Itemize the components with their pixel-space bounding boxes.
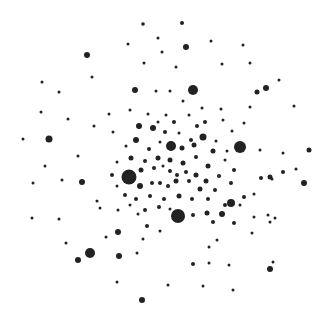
dot [132, 87, 138, 93]
dot [116, 253, 122, 259]
dot [232, 289, 235, 292]
dot [105, 236, 108, 239]
dot [143, 62, 146, 65]
dot [178, 132, 181, 135]
dot [166, 184, 170, 188]
dot [129, 109, 132, 112]
dot [162, 165, 165, 168]
dot [201, 107, 204, 110]
dot [211, 149, 216, 154]
dot [263, 85, 269, 91]
dot [136, 252, 139, 255]
dot [189, 138, 193, 142]
dot [232, 221, 236, 225]
dot [145, 224, 149, 228]
dot [136, 123, 142, 129]
dot [162, 197, 166, 201]
dot [116, 185, 119, 188]
dot [242, 44, 245, 47]
dot [116, 281, 119, 284]
dot [148, 194, 152, 198]
dot [188, 114, 191, 117]
dot [228, 264, 231, 267]
dot [157, 205, 161, 209]
dot [229, 181, 233, 185]
dot [99, 207, 102, 210]
dot [122, 170, 137, 185]
dot [58, 91, 61, 94]
dot [206, 197, 210, 201]
dot [175, 66, 178, 69]
dot [274, 217, 277, 220]
dot [172, 120, 176, 124]
dot [129, 156, 134, 161]
dot [167, 284, 170, 287]
dot [181, 161, 186, 166]
dot [251, 232, 254, 235]
dot [67, 118, 70, 121]
dot [177, 194, 182, 199]
dot [182, 100, 185, 103]
dot [243, 122, 246, 125]
dot [267, 266, 273, 272]
dot [242, 195, 246, 199]
dot [224, 159, 227, 162]
dot [159, 141, 162, 144]
dot [143, 159, 147, 163]
dot [171, 209, 185, 223]
dot [75, 257, 81, 263]
dot [41, 81, 44, 84]
dot [65, 242, 68, 245]
dot [222, 119, 225, 122]
dot [215, 140, 218, 143]
dot [307, 148, 312, 153]
dot [255, 90, 260, 95]
dot [142, 238, 145, 241]
dot [155, 90, 158, 93]
dot [200, 134, 207, 141]
dot [194, 173, 199, 178]
dot [205, 211, 210, 216]
dot [253, 193, 256, 196]
dot [169, 208, 172, 211]
dot [282, 152, 285, 155]
dot [195, 124, 199, 128]
dot [281, 170, 285, 174]
dot [31, 217, 34, 220]
dot [217, 174, 221, 178]
dot [150, 181, 154, 185]
dot [227, 199, 235, 207]
dot [293, 105, 296, 108]
dot [123, 193, 127, 197]
dot [210, 40, 213, 43]
dot [168, 169, 172, 173]
dot [232, 168, 236, 172]
dot [133, 137, 139, 143]
dot [301, 180, 307, 186]
dot [206, 164, 211, 169]
dot [203, 120, 207, 124]
dot [295, 168, 298, 171]
dot [253, 216, 256, 219]
dot [174, 179, 179, 184]
dot [221, 63, 224, 66]
background [0, 0, 333, 314]
dot [259, 176, 263, 180]
dot [93, 125, 96, 128]
dot [272, 261, 275, 264]
dot [158, 181, 162, 185]
dot [110, 173, 114, 177]
dot [112, 131, 115, 134]
dot [216, 239, 219, 242]
dot [150, 125, 156, 131]
dot [231, 130, 234, 133]
dot [61, 179, 64, 182]
dot [161, 51, 164, 54]
dot [269, 221, 272, 224]
dot [219, 211, 225, 217]
dot [191, 213, 195, 217]
dot [188, 85, 198, 95]
dot [125, 145, 128, 148]
dot [77, 155, 80, 158]
dot [129, 204, 132, 207]
